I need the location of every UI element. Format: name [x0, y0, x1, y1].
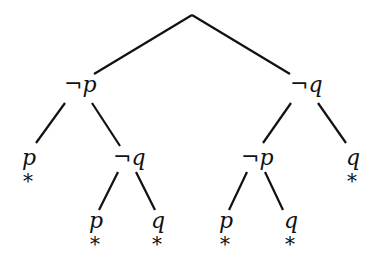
closed-marker: *: [220, 232, 230, 256]
edge-negp2-q: [265, 172, 283, 210]
edge-negq-q: [318, 103, 346, 143]
node-q-leaf-2: q: [284, 208, 298, 233]
node-not-p-inner: ¬p: [241, 145, 274, 170]
node-p-left: p: [22, 145, 36, 170]
node-p-leaf-1: p: [89, 208, 103, 233]
node-not-q-inner: ¬q: [113, 145, 146, 170]
edge-root-negq: [192, 15, 290, 74]
edge-negp-p: [36, 103, 65, 143]
tree-svg: ¬p ¬q p * ¬q ¬p q * p * q * p * q *: [0, 0, 378, 261]
node-not-q: ¬q: [290, 72, 323, 97]
edge-negq2-q: [136, 172, 155, 210]
edge-negq-negp: [263, 103, 291, 143]
edge-negp-negq: [92, 103, 120, 146]
node-q-right: q: [346, 145, 360, 170]
closed-marker: *: [347, 169, 357, 193]
closed-marker: *: [90, 232, 100, 256]
closed-marker: *: [152, 232, 162, 256]
edge-negp2-p: [229, 172, 247, 210]
node-p-leaf-2: p: [219, 208, 233, 233]
edge-root-negp: [94, 15, 192, 74]
node-q-leaf-1: q: [151, 208, 165, 233]
closed-marker: *: [285, 232, 295, 256]
closed-marker: *: [23, 169, 33, 193]
edge-negq2-p: [99, 172, 118, 210]
node-not-p: ¬p: [64, 72, 97, 97]
tableau-diagram: ¬p ¬q p * ¬q ¬p q * p * q * p * q *: [0, 0, 378, 261]
